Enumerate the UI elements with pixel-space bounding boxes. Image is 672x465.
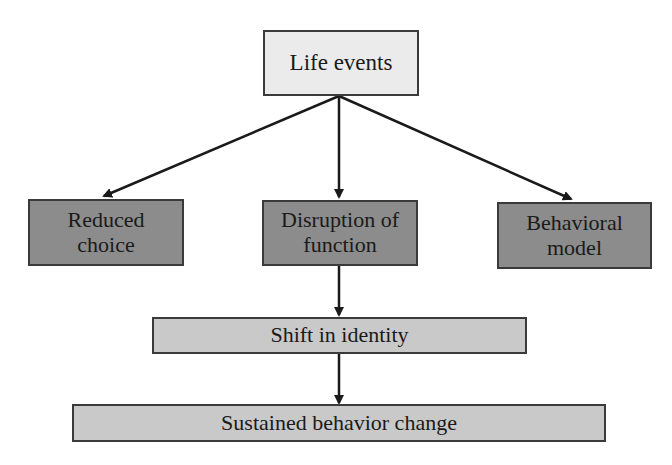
node-shift-in-identity: Shift in identity: [152, 317, 527, 354]
node-reduced-choice-line1: Reduced: [68, 208, 145, 233]
node-shift-in-identity-label: Shift in identity: [270, 323, 408, 348]
node-behavioral-model-line1: Behavioral: [526, 211, 623, 236]
node-sustained-behavior-change-label: Sustained behavior change: [221, 411, 457, 436]
node-reduced-choice: Reduced choice: [28, 199, 184, 266]
node-disruption-of-function: Disruption of function: [262, 200, 418, 266]
node-behavioral-model: Behavioral model: [497, 202, 652, 269]
node-life-events-label: Life events: [290, 50, 393, 76]
node-disruption-line2: function: [303, 233, 376, 258]
arrow-life-events-to-behavioral-model: [339, 96, 571, 199]
node-disruption-line1: Disruption of: [281, 208, 399, 233]
node-sustained-behavior-change: Sustained behavior change: [72, 404, 606, 442]
node-behavioral-model-line2: model: [547, 236, 602, 261]
node-reduced-choice-line2: choice: [77, 233, 134, 258]
node-life-events: Life events: [263, 30, 419, 96]
arrow-life-events-to-reduced-choice: [104, 96, 339, 196]
